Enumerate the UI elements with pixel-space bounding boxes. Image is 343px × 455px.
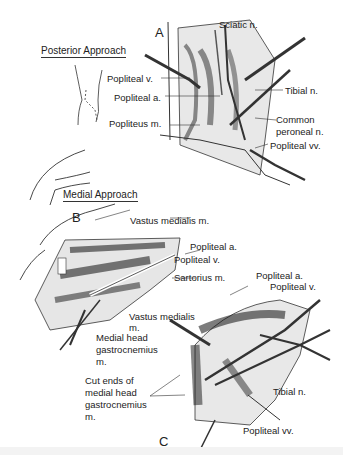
label-tibial-n-c: Tibial n. [273, 386, 306, 397]
posterior-knee-sketch [75, 65, 102, 125]
label-popliteal-v-c: Popliteal v. [270, 281, 316, 292]
label-gastrocnemius-b: gastrocnemius [96, 344, 158, 355]
label-popliteal-vv-c: Popliteal vv. [243, 425, 294, 436]
label-m-c2: m. [85, 411, 96, 422]
label-popliteal-v: Popliteal v. [107, 73, 153, 84]
label-medial-head-c: medial head [85, 387, 137, 398]
label-tibial-n: Tibial n. [285, 85, 318, 96]
anatomical-figure: A Posterior Approach Sciatic n. Poplitea… [0, 0, 343, 455]
label-common: Common [276, 114, 315, 125]
panel-a-surgical-field [145, 20, 305, 185]
label-cut-ends-of: Cut ends of [85, 375, 134, 386]
label-popliteal-a: Popliteal a. [114, 92, 161, 103]
label-sciatic-n: Sciatic n. [219, 19, 258, 30]
panel-b-surgical-field [35, 210, 180, 350]
label-vastus-medialis-c: Vastus medialis [129, 311, 195, 322]
label-popliteal-v-b: Popliteal v. [174, 254, 220, 265]
label-vastus-medialis-b: Vastus medialis m. [130, 215, 209, 226]
label-popliteal-a-b: Popliteal a. [190, 241, 237, 252]
label-popliteus-m: Popliteus m. [109, 118, 161, 129]
bottom-band [0, 447, 343, 455]
label-peroneal-n: peroneal n. [276, 126, 324, 137]
label-m-b: m. [96, 356, 107, 367]
label-popliteal-vv: Popliteal vv. [270, 140, 321, 151]
label-gastrocnemius-c: gastrocnemius [85, 399, 147, 410]
label-popliteal-a-c: Popliteal a. [256, 270, 303, 281]
label-medial-head-b: Medial head [96, 332, 148, 343]
panel-a-letter: A [155, 25, 164, 40]
panel-b-letter: B [72, 210, 81, 225]
panel-a-title: Posterior Approach [41, 45, 126, 58]
panel-b-title: Medial Approach [63, 189, 138, 202]
label-m-c1: m. [129, 322, 140, 333]
label-sartorius-m: Sartorius m. [174, 272, 225, 283]
